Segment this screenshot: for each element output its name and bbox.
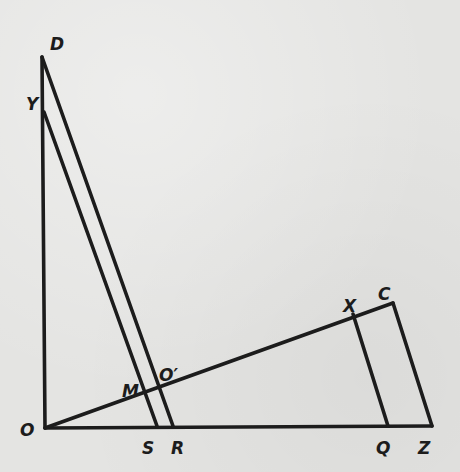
segment-CZ <box>393 303 432 426</box>
segment-OC <box>45 303 393 428</box>
diagram-canvas: ODYSRQZCXMO′ <box>0 0 460 472</box>
point-label-c: C <box>378 284 391 304</box>
labels-layer: ODYSRQZCXMO′ <box>20 34 431 458</box>
segment-XQ <box>353 314 388 426</box>
point-label-y: Y <box>26 94 40 114</box>
point-label-q: Q <box>376 438 390 458</box>
geometry-figure: ODYSRQZCXMO′ <box>0 0 460 472</box>
point-label-z: Z <box>417 438 431 458</box>
segment-DR <box>42 57 173 426</box>
point-label-oprime: O′ <box>159 365 178 385</box>
segment-YS <box>44 112 157 426</box>
point-label-x: X <box>342 296 357 316</box>
point-label-o: O <box>20 420 34 440</box>
point-label-m: M <box>122 381 139 401</box>
point-label-s: S <box>142 438 154 458</box>
point-label-d: D <box>50 34 64 54</box>
point-label-r: R <box>171 438 184 458</box>
segments-layer <box>42 57 432 428</box>
segment-OZ <box>45 426 432 428</box>
